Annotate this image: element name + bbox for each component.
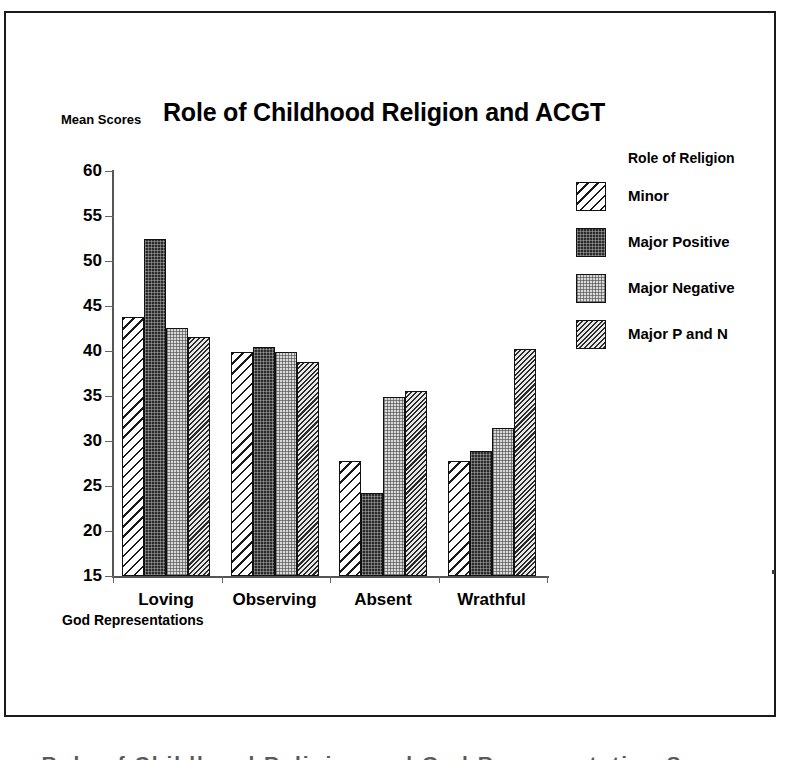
y-tick-mark	[105, 171, 113, 172]
x-axis-title: God Representations	[62, 612, 204, 628]
legend-title: Role of Religion	[628, 150, 735, 166]
y-tick-mark	[105, 396, 113, 397]
legend-swatch-icon	[576, 274, 606, 303]
y-tick-mark	[105, 261, 113, 262]
bar-absent-major-p-and-n	[405, 391, 427, 576]
bar-loving-major-negative	[166, 328, 188, 576]
bar-absent-minor	[339, 461, 361, 576]
y-tick-mark	[105, 351, 113, 352]
y-axis-title: Mean Scores	[61, 112, 141, 127]
bar-loving-major-positive	[144, 239, 166, 576]
bar-loving-major-p-and-n	[188, 337, 210, 576]
y-tick-label: 50	[83, 251, 102, 271]
legend-label: Major Positive	[628, 233, 730, 250]
y-tick-mark	[105, 486, 113, 487]
plot-area: 15202530354045505560LovingObservingAbsen…	[113, 171, 547, 576]
y-tick-mark	[105, 441, 113, 442]
x-tick-mark	[222, 576, 223, 583]
bar-loving-minor	[122, 317, 144, 576]
y-tick-mark	[105, 216, 113, 217]
legend-swatch-icon	[576, 320, 606, 349]
legend-label: Minor	[628, 187, 669, 204]
legend-swatch-icon	[576, 182, 606, 211]
scan-artifact-speck	[772, 570, 775, 574]
bar-absent-major-positive	[361, 493, 383, 576]
y-tick-label: 15	[83, 566, 102, 586]
bar-observing-major-negative	[275, 352, 297, 576]
x-tick-mark	[547, 576, 548, 583]
bar-wrathful-major-positive	[470, 451, 492, 576]
y-tick-label: 30	[83, 431, 102, 451]
y-tick-label: 20	[83, 521, 102, 541]
bar-observing-major-positive	[253, 347, 275, 576]
y-tick-label: 35	[83, 386, 102, 406]
y-tick-label: 25	[83, 476, 102, 496]
x-axis-label-observing: Observing	[232, 590, 316, 610]
bar-absent-major-negative	[383, 397, 405, 576]
clipped-caption: Role of Childhood Religion and God Repre…	[0, 752, 790, 760]
legend-swatch-icon	[576, 228, 606, 257]
chart-title: Role of Childhood Religion and ACGT	[163, 98, 605, 127]
bar-observing-major-p-and-n	[297, 362, 319, 576]
y-tick-mark	[105, 306, 113, 307]
legend-label: Major Negative	[628, 279, 735, 296]
x-axis-label-absent: Absent	[354, 590, 412, 610]
y-tick-mark	[105, 576, 113, 577]
y-tick-label: 45	[83, 296, 102, 316]
x-axis-label-loving: Loving	[138, 590, 194, 610]
x-axis-label-wrathful: Wrathful	[457, 590, 526, 610]
legend-label: Major P and N	[628, 325, 728, 342]
y-tick-mark	[105, 531, 113, 532]
x-tick-mark	[113, 576, 114, 583]
x-tick-mark	[330, 576, 331, 583]
bar-wrathful-major-p-and-n	[514, 349, 536, 576]
x-tick-mark	[439, 576, 440, 583]
bar-wrathful-major-negative	[492, 428, 514, 576]
y-tick-label: 60	[83, 161, 102, 181]
bar-observing-minor	[231, 352, 253, 576]
y-tick-label: 55	[83, 206, 102, 226]
y-tick-label: 40	[83, 341, 102, 361]
bar-wrathful-minor	[448, 461, 470, 576]
